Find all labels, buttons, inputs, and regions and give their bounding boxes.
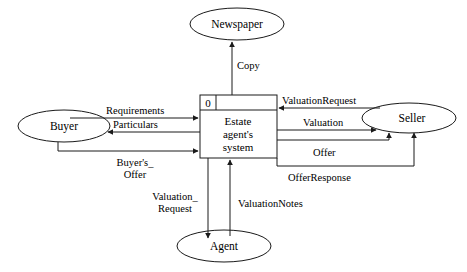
entity-buyer[interactable]: Buyer — [18, 110, 110, 142]
buyers-offer-arrow — [58, 142, 198, 151]
flow-valuation-request-seller: ValuationRequest — [279, 95, 380, 108]
process-estate-agents-system[interactable]: 0 Estate agent's system — [200, 95, 277, 158]
offer-arrow — [277, 133, 389, 140]
data-flow-diagram: Newspaper Buyer Seller Agent Copy Requir… — [0, 0, 467, 272]
process-name-line1: Estate — [225, 115, 252, 127]
buyer-label: Buyer — [50, 120, 78, 133]
process-number: 0 — [205, 97, 211, 109]
offer-response-arrow — [277, 133, 414, 166]
buyers-offer-label-line2: Offer — [124, 169, 147, 180]
requirements-label: Requirements — [106, 105, 164, 116]
offer-response-label: OfferResponse — [288, 172, 351, 183]
process-name-line2: agent's — [223, 128, 253, 140]
copy-label: Copy — [237, 60, 261, 71]
valuation-label: Valuation — [303, 117, 344, 128]
flow-valuation-request-agent: Valuation_ Request — [152, 158, 208, 238]
diagram-canvas: Newspaper Buyer Seller Agent Copy Requir… — [0, 0, 467, 272]
flow-valuation: Valuation — [277, 117, 376, 130]
agent-label: Agent — [210, 240, 239, 253]
valuation-request-seller-label: ValuationRequest — [282, 95, 356, 106]
flow-copy: Copy — [232, 42, 261, 95]
valuation-request-agent-label-line1: Valuation_ — [152, 191, 198, 202]
flow-particulars: Particulars — [108, 119, 200, 132]
entity-agent[interactable]: Agent — [177, 230, 271, 262]
flow-buyers-offer: Buyer's_ Offer — [58, 142, 198, 180]
valuation-request-agent-label-line2: Request — [158, 203, 192, 214]
valuation-notes-label: ValuationNotes — [238, 198, 303, 209]
flow-offer: Offer — [277, 133, 389, 158]
newspaper-label: Newspaper — [211, 18, 263, 31]
offer-label: Offer — [313, 147, 336, 158]
entity-newspaper[interactable]: Newspaper — [190, 8, 284, 40]
process-name-line3: system — [223, 141, 254, 153]
particulars-label: Particulars — [113, 119, 158, 130]
seller-label: Seller — [399, 112, 426, 124]
buyers-offer-label-line1: Buyer's_ — [117, 157, 155, 168]
